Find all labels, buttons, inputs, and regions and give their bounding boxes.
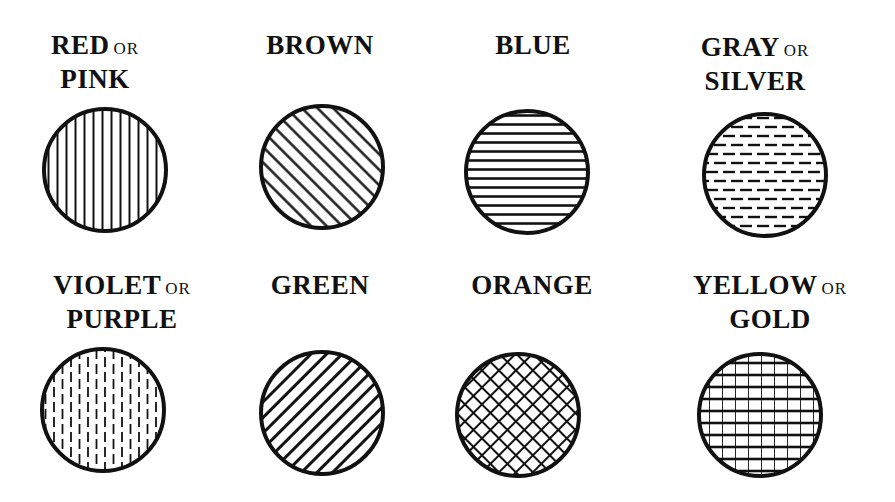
- color-label-line2: PURPLE: [22, 304, 222, 334]
- color-label: GREEN: [220, 270, 420, 300]
- diagonal-lines-up-circle-icon: [252, 97, 392, 237]
- color-label: GRAYOR SILVER: [655, 32, 855, 96]
- diagonal-crosshatch-circle-icon: [448, 345, 588, 485]
- or-word: OR: [113, 39, 139, 58]
- color-label-line1: YELLOWOR: [670, 270, 870, 304]
- or-word: OR: [165, 279, 191, 298]
- color-label: YELLOWOR GOLD: [670, 270, 870, 334]
- color-label-line1: GREEN: [220, 270, 420, 300]
- color-name: RED: [51, 30, 110, 60]
- color-name: ORANGE: [471, 270, 593, 300]
- color-label-line1: REDOR: [0, 30, 195, 64]
- vertical-lines-circle-icon: [35, 100, 175, 240]
- color-label: BROWN: [220, 30, 420, 60]
- diagonal-lines-down-circle-icon: [252, 343, 392, 483]
- color-label: REDOR PINK: [0, 30, 195, 94]
- color-label: ORANGE: [432, 270, 632, 300]
- grid-crosshatch-circle-icon: [690, 345, 830, 485]
- horizontal-lines-circle-icon: [457, 102, 597, 242]
- color-label-line2: SILVER: [655, 66, 855, 96]
- color-name: VIOLET: [53, 270, 161, 300]
- or-word: OR: [821, 279, 847, 298]
- color-name: GREEN: [271, 270, 370, 300]
- color-label-line2: PINK: [0, 64, 195, 94]
- color-label: VIOLETOR PURPLE: [22, 270, 222, 334]
- color-label-line1: BROWN: [220, 30, 420, 60]
- vertical-dashes-circle-icon: [33, 340, 173, 480]
- color-name: BLUE: [495, 30, 571, 60]
- horizontal-dashes-circle-icon: [695, 105, 835, 245]
- color-label-line1: ORANGE: [432, 270, 632, 300]
- color-label-line2: GOLD: [670, 304, 870, 334]
- color-name: GRAY: [701, 32, 780, 62]
- color-name: YELLOW: [693, 270, 818, 300]
- color-label: BLUE: [433, 30, 633, 60]
- color-label-line1: BLUE: [433, 30, 633, 60]
- or-word: OR: [784, 41, 810, 60]
- color-label-line1: VIOLETOR: [22, 270, 222, 304]
- color-label-line1: GRAYOR: [655, 32, 855, 66]
- color-name: BROWN: [266, 30, 374, 60]
